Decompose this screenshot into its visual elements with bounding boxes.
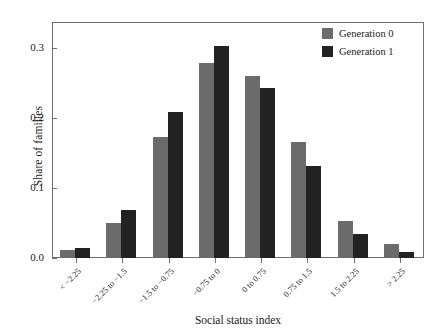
y-tick-label: 0.0	[0, 251, 44, 263]
bar[interactable]	[75, 248, 90, 258]
bar[interactable]	[121, 210, 136, 258]
legend-label-generation-1: Generation 1	[339, 44, 394, 59]
bar[interactable]	[260, 88, 275, 258]
x-tick-mark	[400, 258, 401, 263]
y-axis-title: Share of families	[32, 46, 44, 246]
y-tick-label: 0.3	[0, 41, 44, 53]
bar-group	[53, 23, 99, 258]
x-axis-title: Social status index	[52, 314, 424, 326]
legend-item[interactable]: Generation 0	[322, 26, 394, 41]
bar-chart-figure: Share of families 0.00.10.20.3 < −2.25−2…	[0, 0, 438, 334]
bar-group	[238, 23, 284, 258]
legend-label-generation-0: Generation 0	[339, 26, 394, 41]
legend: Generation 0 Generation 1	[322, 26, 394, 62]
bar[interactable]	[245, 76, 260, 258]
x-tick-mark	[215, 258, 216, 263]
bar[interactable]	[60, 250, 75, 258]
bar[interactable]	[168, 112, 183, 258]
x-tick-mark	[169, 258, 170, 263]
bar[interactable]	[384, 244, 399, 258]
x-tick-mark	[261, 258, 262, 263]
bar-group	[99, 23, 145, 258]
x-tick-mark	[307, 258, 308, 263]
x-tick-mark	[354, 258, 355, 263]
x-tick-mark	[76, 258, 77, 263]
bar[interactable]	[291, 142, 306, 258]
y-tick-label: 0.2	[0, 111, 44, 123]
bar-group	[192, 23, 238, 258]
bar[interactable]	[199, 63, 214, 258]
bar[interactable]	[106, 223, 121, 258]
bar-group	[146, 23, 192, 258]
legend-swatch-generation-1	[322, 46, 333, 57]
bar[interactable]	[153, 137, 168, 258]
x-tick-mark	[122, 258, 123, 263]
y-tick-mark	[52, 258, 57, 259]
y-tick-label: 0.1	[0, 181, 44, 193]
bar[interactable]	[338, 221, 353, 258]
bar[interactable]	[306, 166, 321, 258]
legend-swatch-generation-0	[322, 28, 333, 39]
legend-item[interactable]: Generation 1	[322, 44, 394, 59]
bar[interactable]	[214, 46, 229, 258]
bar[interactable]	[399, 252, 414, 258]
bar[interactable]	[353, 234, 368, 258]
